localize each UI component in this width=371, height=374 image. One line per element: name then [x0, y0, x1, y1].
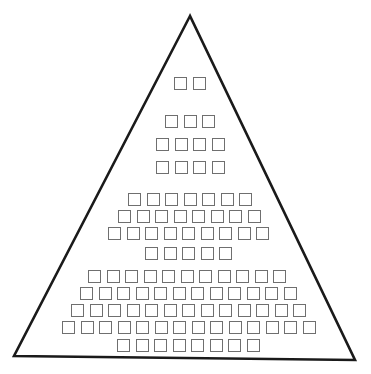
square-box	[175, 138, 188, 151]
square-box	[71, 304, 84, 317]
square-box	[293, 304, 306, 317]
square-box	[155, 321, 168, 334]
square-box	[154, 287, 167, 300]
square-box	[212, 138, 225, 151]
square-box	[256, 304, 269, 317]
square-box	[247, 287, 260, 300]
square-box	[211, 210, 224, 223]
square-box	[90, 304, 103, 317]
pyramid-diagram	[0, 0, 371, 374]
square-box	[162, 270, 175, 283]
square-box	[219, 227, 232, 240]
square-box	[108, 304, 121, 317]
square-box	[99, 287, 112, 300]
square-box	[210, 321, 223, 334]
square-box	[193, 77, 206, 90]
square-box	[145, 227, 158, 240]
square-box	[156, 161, 169, 174]
square-box	[108, 227, 121, 240]
square-box	[266, 321, 279, 334]
square-box	[273, 270, 286, 283]
square-box	[201, 227, 214, 240]
square-box	[255, 270, 268, 283]
square-box	[221, 193, 234, 206]
square-box	[229, 321, 242, 334]
square-box	[184, 115, 197, 128]
square-box	[256, 227, 269, 240]
square-box	[127, 227, 140, 240]
square-box	[174, 77, 187, 90]
square-box	[219, 247, 232, 260]
square-box	[80, 287, 93, 300]
square-box	[229, 210, 242, 223]
square-box	[238, 227, 251, 240]
square-box	[284, 321, 297, 334]
square-box	[164, 304, 177, 317]
square-box	[107, 270, 120, 283]
square-box	[275, 304, 288, 317]
square-box	[137, 210, 150, 223]
square-box	[145, 247, 158, 260]
square-box	[181, 270, 194, 283]
square-box	[192, 210, 205, 223]
square-box	[182, 247, 195, 260]
square-box	[193, 161, 206, 174]
square-box	[174, 210, 187, 223]
square-box	[118, 210, 131, 223]
square-box	[228, 339, 241, 352]
square-box	[191, 287, 204, 300]
square-box	[81, 321, 94, 334]
square-box	[165, 193, 178, 206]
square-box	[284, 287, 297, 300]
square-box	[202, 115, 215, 128]
square-box	[303, 321, 316, 334]
square-box	[210, 287, 223, 300]
square-box	[175, 161, 188, 174]
square-box	[155, 210, 168, 223]
square-box	[164, 227, 177, 240]
square-box	[128, 193, 141, 206]
square-box	[154, 339, 167, 352]
square-box	[210, 339, 223, 352]
square-box	[201, 247, 214, 260]
square-box	[182, 227, 195, 240]
square-box	[219, 304, 232, 317]
triangle-outline	[0, 0, 371, 374]
square-box	[165, 115, 178, 128]
square-box	[99, 321, 112, 334]
square-box	[117, 339, 130, 352]
square-box	[62, 321, 75, 334]
square-box	[248, 210, 261, 223]
square-box	[173, 321, 186, 334]
square-box	[236, 270, 249, 283]
square-box	[202, 193, 215, 206]
square-box	[191, 339, 204, 352]
square-box	[182, 304, 195, 317]
square-box	[238, 304, 251, 317]
square-box	[247, 321, 260, 334]
square-box	[239, 193, 252, 206]
square-box	[201, 304, 214, 317]
square-box	[136, 321, 149, 334]
square-box	[144, 270, 157, 283]
square-box	[145, 304, 158, 317]
square-box	[173, 287, 186, 300]
square-box	[136, 339, 149, 352]
square-box	[173, 339, 186, 352]
square-box	[156, 138, 169, 151]
square-box	[118, 321, 131, 334]
square-box	[193, 138, 206, 151]
square-box	[147, 193, 160, 206]
square-box	[199, 270, 212, 283]
square-box	[265, 287, 278, 300]
square-box	[125, 270, 138, 283]
square-box	[127, 304, 140, 317]
square-box	[117, 287, 130, 300]
square-box	[184, 193, 197, 206]
square-box	[192, 321, 205, 334]
square-box	[212, 161, 225, 174]
square-box	[164, 247, 177, 260]
square-box	[88, 270, 101, 283]
square-box	[228, 287, 241, 300]
square-box	[247, 339, 260, 352]
